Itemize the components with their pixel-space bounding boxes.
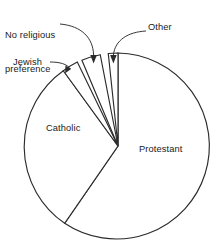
callout-label-no-religious-preference: No religious preference: [5, 8, 55, 98]
slice-label-catholic: Catholic: [46, 123, 80, 134]
pie-chart-figure: No religious preference Jewish Other Cat…: [0, 0, 218, 252]
callout-label-other: Other: [148, 22, 172, 33]
leader-line-no-religious-preference: [60, 24, 94, 55]
callout-label-jewish: Jewish: [13, 57, 42, 68]
slice-label-protestant: Protestant: [139, 144, 182, 155]
leader-line-other: [113, 31, 146, 55]
callout-label-no-religious-preference-line1: No religious: [5, 30, 55, 41]
